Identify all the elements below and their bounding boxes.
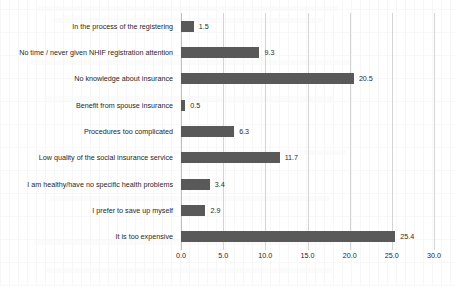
category-label: Procedures too complicated: [0, 118, 177, 144]
value-axis-tick-labels: 0.05.010.015.020.025.030.0: [181, 252, 434, 266]
gridline-30.0: [434, 13, 435, 250]
bar[interactable]: [181, 231, 395, 242]
category-label: In the process of the registering: [0, 13, 177, 39]
bar-value-label: 1.5: [199, 23, 209, 30]
tick-label: 30.0: [427, 252, 441, 259]
bar[interactable]: [181, 179, 210, 190]
category-label: No knowledge about insurance: [0, 66, 177, 92]
bar-row: 20.5: [181, 66, 434, 92]
bar[interactable]: [181, 21, 194, 32]
bar-value-label: 0.5: [190, 102, 200, 109]
bar[interactable]: [181, 73, 354, 84]
category-label: Low quality of the social insurance serv…: [0, 145, 177, 171]
bar-row: 0.5: [181, 92, 434, 118]
bar[interactable]: [181, 205, 205, 216]
horizontal-bar-chart: In the process of the registeringNo time…: [0, 0, 455, 286]
bar[interactable]: [181, 47, 259, 58]
category-label: I am healthy/have no specific health pro…: [0, 171, 177, 197]
bar[interactable]: [181, 126, 234, 137]
bar-row: 25.4: [181, 224, 434, 250]
bar-value-label: 6.3: [239, 128, 249, 135]
bar-row: 3.4: [181, 171, 434, 197]
bar-value-label: 25.4: [400, 233, 414, 240]
tick-label: 25.0: [385, 252, 399, 259]
bar-value-label: 3.4: [215, 181, 225, 188]
category-axis-labels: In the process of the registeringNo time…: [0, 13, 177, 250]
tick-label: 20.0: [343, 252, 357, 259]
bar-value-label: 11.7: [285, 154, 298, 161]
plot-area: 1.59.320.50.56.311.73.42.925.4: [181, 13, 434, 250]
bar[interactable]: [181, 152, 280, 163]
bar-rows: 1.59.320.50.56.311.73.42.925.4: [181, 13, 434, 250]
category-label: I prefer to save up myself: [0, 197, 177, 223]
bar-value-label: 2.9: [210, 207, 220, 214]
category-label: Benefit from spouse insurance: [0, 92, 177, 118]
tick-label: 15.0: [301, 252, 315, 259]
category-label: It is too expensive: [0, 224, 177, 250]
bar-row: 9.3: [181, 39, 434, 65]
bar-value-label: 20.5: [359, 75, 373, 82]
tick-label: 10.0: [258, 252, 272, 259]
category-label: No time / never given NHIF registration …: [0, 39, 177, 65]
tick-label: 0.0: [176, 252, 186, 259]
bar-value-label: 9.3: [264, 49, 274, 56]
bar-row: 6.3: [181, 118, 434, 144]
tick-label: 5.0: [218, 252, 228, 259]
bar-row: 11.7: [181, 145, 434, 171]
bar-row: 1.5: [181, 13, 434, 39]
bar[interactable]: [181, 100, 185, 111]
bar-row: 2.9: [181, 197, 434, 223]
